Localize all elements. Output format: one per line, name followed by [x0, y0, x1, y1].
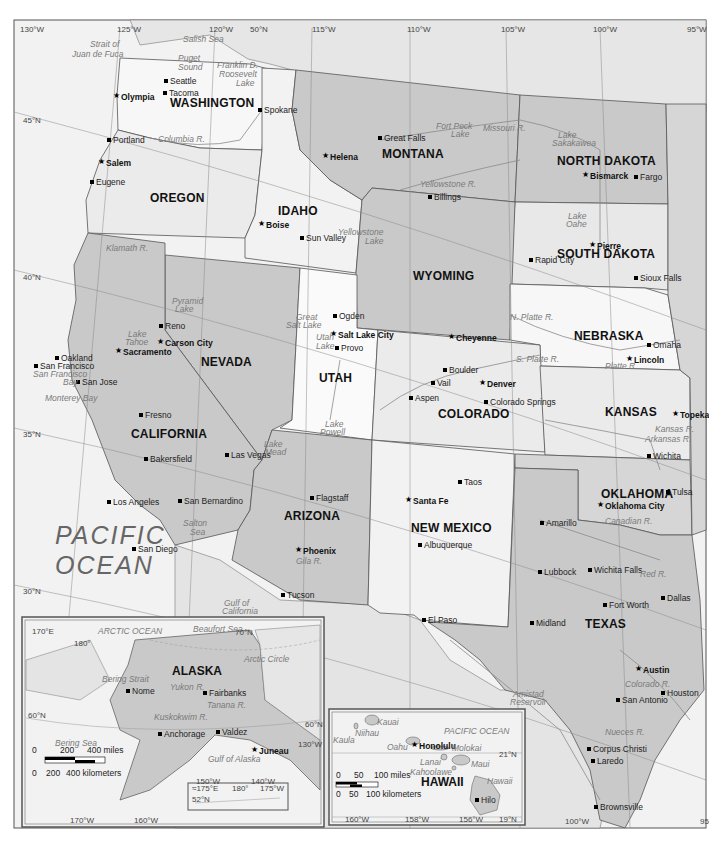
state-label-california: CALIFORNIA [131, 428, 207, 440]
grid-label-115-w: 115°W [312, 26, 336, 34]
city-dot-icon [107, 138, 111, 142]
capital-star-icon: ★ [157, 338, 164, 346]
hawaii-grid-label-160-w: 160°W [345, 816, 369, 824]
alaska-grid-label-160-w: 160°W [134, 817, 158, 825]
city-dot-icon [591, 759, 595, 763]
grid-label-130-w: 130°W [20, 26, 44, 34]
capital-star-icon: ★ [672, 410, 679, 418]
city-label-santa-fe: Santa Fe [413, 497, 448, 506]
city-label-flagstaff: Flagstaff [316, 494, 348, 503]
city-label-billings: Billings [434, 193, 461, 202]
city-label-aspen: Aspen [415, 394, 439, 403]
city-dot-icon [107, 500, 111, 504]
grid-label-30-n: 30°N [23, 588, 41, 596]
water-label-columbia-r: Columbia R. [158, 135, 205, 144]
city-label-hilo: Hilo [481, 796, 496, 805]
city-label-honolulu: Honolulu [419, 742, 456, 751]
water-label-lake: Lake [175, 305, 193, 314]
city-dot-icon [281, 593, 285, 597]
western-us-map [0, 0, 709, 850]
city-label-lubbock: Lubbock [544, 568, 576, 577]
city-dot-icon [144, 457, 148, 461]
capital-star-icon: ★ [113, 92, 120, 100]
alaska-water-label-kuskokwim-r: Kuskokwim R. [154, 713, 208, 722]
city-label-boulder: Boulder [449, 366, 478, 375]
city-label-cheyenne: Cheyenne [456, 334, 497, 343]
city-dot-icon [443, 368, 447, 372]
island-label-hawaii: Hawaii [487, 777, 513, 786]
colorado-shape [372, 330, 545, 452]
hawaii-title: HAWAII [421, 776, 464, 788]
alaska-grid-label-130-w: 130°W [298, 741, 322, 749]
city-dot-icon [178, 499, 182, 503]
city-label-anchorage: Anchorage [164, 730, 205, 739]
city-dot-icon [666, 490, 670, 494]
city-label-oklahoma-city: Oklahoma City [605, 502, 665, 511]
city-label-taos: Taos [464, 478, 482, 487]
water-label-salt-lake: Salt Lake [286, 321, 321, 330]
city-dot-icon [34, 364, 38, 368]
maui-island [452, 755, 470, 765]
city-dot-icon [310, 496, 314, 500]
water-label-yellowstone-r: Yellowstone R. [420, 180, 476, 189]
city-dot-icon [258, 108, 262, 112]
capital-star-icon: ★ [479, 379, 486, 387]
city-dot-icon [647, 343, 651, 347]
alaska-water-label-yukon-r: Yukon R. [170, 683, 205, 692]
city-label-carson-city: Carson City [165, 339, 213, 348]
city-dot-icon [126, 689, 130, 693]
alaska-grid-label-180: 180° [74, 640, 91, 648]
city-dot-icon [55, 356, 59, 360]
ocean-label-line1: PACIFIC [55, 520, 166, 550]
city-label-ogden: Ogden [339, 312, 365, 321]
water-label-lake: Lake [451, 130, 469, 139]
city-label-tucson: Tucson [287, 591, 315, 600]
city-label-tacoma: Tacoma [169, 89, 199, 98]
city-label-salt-lake-city: Salt Lake City [338, 331, 394, 340]
water-label-lake: Lake [365, 237, 383, 246]
grid-label-35-n: 35°N [23, 431, 41, 439]
water-label-red-r: Red R. [640, 570, 666, 579]
state-label-kansas: KANSAS [605, 406, 657, 418]
water-label-mead: Mead [265, 448, 286, 457]
alaska-water-label-gulf-of-alaska: Gulf of Alaska [208, 755, 261, 764]
grid-label-50-n: 50°N [250, 26, 268, 34]
city-label-el-paso: El Paso [428, 616, 457, 625]
capital-star-icon: ★ [589, 241, 596, 249]
city-label-corpus-christi: Corpus Christi [593, 745, 647, 754]
alaska-grid-label-170-e: 170°E [32, 628, 54, 636]
city-dot-icon [661, 596, 665, 600]
city-label-portland: Portland [113, 136, 145, 145]
water-label-kansas-r: Kansas R. [655, 425, 694, 434]
grid-label-105-w: 105°W [501, 26, 525, 34]
lanai-island [441, 754, 447, 760]
city-label-austin: Austin [643, 666, 669, 675]
city-label-los-angeles: Los Angeles [113, 498, 159, 507]
island-label-molokai: Molokai [452, 744, 481, 753]
alaska-water-label-arctic-ocean: ARCTIC OCEAN [98, 627, 162, 636]
city-label-valdez: Valdez [222, 728, 247, 737]
city-label-amarillo: Amarillo [546, 519, 577, 528]
grid-label-40-n: 40°N [23, 274, 41, 282]
grid-label-110-w: 110°W [407, 26, 431, 34]
alaska-water-label-bering-strait: Bering Strait [102, 675, 149, 684]
city-label-juneau: Juneau [259, 747, 289, 756]
kahoolawe-island [452, 766, 456, 770]
city-label-salem: Salem [106, 159, 131, 168]
north-dakota-shape [515, 95, 668, 204]
city-label-denver: Denver [487, 380, 516, 389]
city-label-seattle: Seattle [170, 77, 196, 86]
city-dot-icon [529, 258, 533, 262]
grid-label-95-w: 95°W [687, 26, 707, 34]
water-label-bay: Bay [63, 378, 78, 387]
city-dot-icon [300, 236, 304, 240]
grid-label-125-w: 125°W [117, 26, 141, 34]
water-label-lake: Lake [236, 79, 254, 88]
pacific-ocean-label: PACIFIC OCEAN [55, 520, 166, 580]
island-label-kaula: Kaula [333, 736, 355, 745]
city-label-topeka: Topeka [680, 411, 709, 420]
city-label-wichita-falls: Wichita Falls [594, 566, 642, 575]
city-label-helena: Helena [330, 153, 358, 162]
city-dot-icon [484, 400, 488, 404]
water-label-missouri-r: Missouri R. [483, 124, 526, 133]
